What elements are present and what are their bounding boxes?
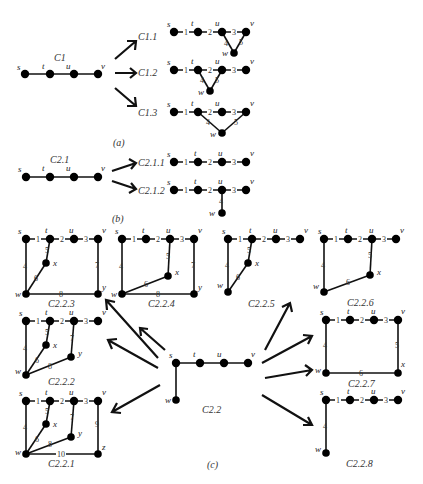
- svg-text:u: u: [273, 225, 278, 235]
- svg-text:6: 6: [34, 274, 38, 283]
- svg-text:w: w: [165, 395, 171, 405]
- svg-text:3: 3: [84, 235, 88, 244]
- svg-text:w: w: [198, 87, 204, 97]
- graph-C2-2-4: 1 2 3 4 5 6 7 8 s t u v x w y C2.2.4: [111, 225, 202, 309]
- svg-text:z: z: [101, 442, 106, 452]
- svg-text:1: 1: [36, 235, 40, 244]
- svg-text:4: 4: [23, 344, 27, 353]
- svg-text:x: x: [400, 359, 405, 369]
- svg-text:7: 7: [95, 261, 99, 270]
- svg-text:u: u: [69, 225, 74, 235]
- svg-text:1: 1: [184, 108, 188, 117]
- arrow-icon: [115, 68, 136, 78]
- label-v: v: [101, 61, 105, 71]
- svg-text:2: 2: [358, 235, 362, 244]
- svg-text:4: 4: [119, 262, 123, 271]
- svg-text:1: 1: [334, 235, 338, 244]
- graph-label-C2-2-4: C2.2.4: [148, 298, 175, 309]
- graph-C1-1: 1 2 3 4 5 s t u v w: [167, 18, 254, 58]
- arrow-icon: [115, 88, 136, 106]
- svg-text:u: u: [215, 18, 220, 28]
- svg-text:2: 2: [208, 28, 212, 37]
- svg-text:s: s: [320, 387, 324, 397]
- svg-text:4: 4: [219, 197, 223, 206]
- svg-text:s: s: [167, 99, 171, 109]
- svg-text:s: s: [115, 226, 119, 236]
- svg-text:v: v: [304, 225, 308, 235]
- svg-text:v: v: [251, 349, 255, 359]
- svg-text:v: v: [250, 176, 254, 186]
- vertex-v: [94, 70, 102, 78]
- svg-text:5: 5: [45, 246, 49, 255]
- graph-label-C1-3: C1.3: [138, 107, 157, 118]
- svg-text:4: 4: [206, 118, 210, 127]
- svg-text:2: 2: [208, 186, 212, 195]
- svg-text:3: 3: [232, 28, 236, 37]
- svg-text:t: t: [249, 225, 252, 235]
- panel-b: s t u v C2.1 C2.1.1 C2.1.2 1 2 3 s t u v: [18, 148, 254, 225]
- svg-text:u: u: [217, 349, 222, 359]
- graph-label-C2-2-2: C2.2.2: [48, 376, 75, 387]
- svg-text:t: t: [191, 98, 194, 108]
- svg-text:u: u: [218, 148, 223, 158]
- arrow-icon: [140, 328, 165, 350]
- panel-a: s t u v C1 C1.1 C1.2 C1.3 1 2 3 4 5: [17, 18, 254, 149]
- svg-text:1: 1: [238, 235, 242, 244]
- svg-text:s: s: [19, 388, 23, 398]
- arrow-icon: [265, 303, 292, 350]
- graph-label-C2-1-1: C2.1.1: [138, 157, 165, 168]
- graph-C1-2: 1 2 3 4 5 s t u v w: [167, 56, 254, 97]
- graph-label-C2-2-8: C2.2.8: [346, 458, 373, 469]
- graph-label-C1: C1: [54, 52, 66, 63]
- svg-text:u: u: [218, 176, 223, 186]
- graph-C2-2-6: 1 2 3 4 5 6 s t u v x w C2.2.6: [313, 225, 404, 308]
- svg-text:s: s: [19, 308, 23, 318]
- label-t: t: [42, 61, 45, 71]
- svg-text:s: s: [222, 226, 226, 236]
- graph-C2-2-3: 1 2 3 5 4 6 7 8 s t u v x w y C2.2.3: [15, 225, 106, 309]
- svg-text:2: 2: [208, 108, 212, 117]
- svg-text:s: s: [167, 19, 171, 29]
- svg-text:t: t: [191, 18, 194, 28]
- svg-text:t: t: [142, 225, 145, 235]
- svg-text:7: 7: [70, 334, 74, 343]
- svg-text:u: u: [69, 387, 74, 397]
- arrow-icon: [112, 159, 136, 171]
- panel-label-b: (b): [112, 213, 124, 225]
- svg-text:u: u: [371, 306, 376, 316]
- figure-canvas: s t u v C1 C1.1 C1.2 C1.3 1 2 3 4 5: [0, 0, 423, 484]
- svg-text:v: v: [250, 98, 254, 108]
- vertex-u: [70, 70, 78, 78]
- svg-text:1: 1: [184, 186, 188, 195]
- svg-text:1: 1: [36, 317, 40, 326]
- svg-text:6: 6: [144, 280, 148, 289]
- svg-text:2: 2: [360, 316, 364, 325]
- graph-label-C2-2-5: C2.2.5: [248, 298, 275, 309]
- svg-text:s: s: [169, 350, 173, 360]
- panel-c: s t u v w C2.2: [15, 225, 405, 471]
- svg-text:w: w: [315, 444, 321, 454]
- svg-text:1: 1: [184, 158, 188, 167]
- graph-label-C2-1: C2.1: [50, 154, 69, 165]
- svg-text:7: 7: [191, 261, 195, 270]
- svg-text:w: w: [210, 129, 216, 139]
- svg-text:x: x: [376, 267, 381, 277]
- svg-text:t: t: [191, 56, 194, 66]
- svg-text:5: 5: [395, 341, 399, 350]
- svg-text:u: u: [371, 386, 376, 396]
- svg-text:v: v: [401, 386, 405, 396]
- svg-text:w: w: [15, 289, 21, 299]
- svg-text:2: 2: [360, 396, 364, 405]
- svg-text:v: v: [102, 225, 106, 235]
- svg-text:4: 4: [200, 76, 204, 85]
- svg-text:u: u: [69, 307, 74, 317]
- svg-text:v: v: [250, 18, 254, 28]
- svg-text:4: 4: [224, 39, 228, 48]
- svg-text:u: u: [369, 225, 374, 235]
- graph-C2-1: s t u v C2.1: [18, 154, 105, 181]
- svg-text:y: y: [77, 348, 82, 358]
- svg-text:1: 1: [336, 316, 340, 325]
- svg-text:4: 4: [321, 261, 325, 270]
- svg-text:w: w: [111, 289, 117, 299]
- svg-text:x: x: [52, 258, 57, 268]
